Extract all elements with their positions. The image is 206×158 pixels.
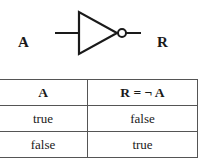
truth-table: A R = ¬ A true false false true: [0, 79, 198, 158]
table-row: true false: [0, 106, 198, 132]
gate-triangle: [79, 12, 117, 54]
header-r: R = ¬ A: [88, 80, 198, 106]
inversion-bubble: [118, 29, 126, 37]
cell-r: true: [88, 132, 198, 158]
cell-a: true: [0, 106, 88, 132]
cell-r: false: [88, 106, 198, 132]
header-a: A: [0, 80, 88, 106]
cell-a: false: [0, 132, 88, 158]
table-row: false true: [0, 132, 198, 158]
not-gate-icon: [0, 0, 206, 70]
table-header-row: A R = ¬ A: [0, 80, 198, 106]
